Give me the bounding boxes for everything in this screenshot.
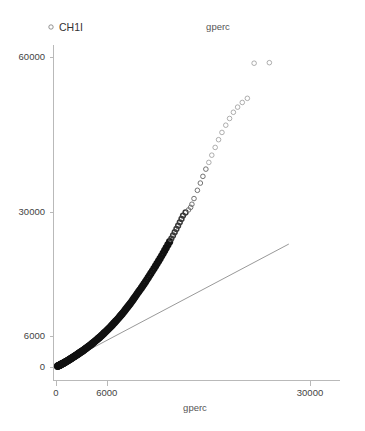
data-point-marker <box>235 105 240 110</box>
legend-label-ch1i: CH1I <box>59 21 83 33</box>
data-point-marker <box>231 110 236 115</box>
y-tick-label: 60000 <box>19 51 45 62</box>
legend: CH1I <box>49 21 83 33</box>
data-point-marker <box>195 188 200 193</box>
data-points-group <box>55 60 272 368</box>
data-point-marker <box>223 123 228 128</box>
data-point-marker <box>207 160 212 165</box>
data-point-marker <box>183 210 188 215</box>
scatter-plot-figure: gperc CH1I 060003000060000 0600030000 gp… <box>0 0 365 431</box>
data-point-marker <box>220 130 225 135</box>
x-tick-label: 6000 <box>96 387 117 398</box>
x-axis-title: gperc <box>183 402 207 413</box>
data-point-marker <box>213 145 218 150</box>
data-point-marker <box>201 174 206 179</box>
data-point-marker <box>204 167 209 172</box>
x-axis-ticks: 0600030000 <box>53 381 323 399</box>
chart-canvas: gperc CH1I 060003000060000 0600030000 gp… <box>0 0 365 431</box>
y-tick-label: 6000 <box>24 330 45 341</box>
y-axis-ticks: 060003000060000 <box>19 51 54 372</box>
y-tick-label: 30000 <box>19 206 45 217</box>
y-tick-label: 0 <box>40 361 45 372</box>
legend-marker-open-circle <box>49 25 53 29</box>
data-point-marker <box>216 137 221 142</box>
data-point-marker <box>267 60 272 65</box>
chart-title: gperc <box>206 21 230 32</box>
data-point-marker <box>240 100 245 105</box>
data-point-marker <box>245 96 250 101</box>
data-point-marker <box>198 181 203 186</box>
reference-line-group <box>59 244 289 366</box>
x-tick-label: 0 <box>53 387 58 398</box>
reference-line <box>59 244 289 366</box>
data-point-marker <box>209 153 214 158</box>
data-point-marker <box>252 61 257 66</box>
x-tick-label: 30000 <box>297 387 323 398</box>
data-point-marker <box>192 196 197 201</box>
data-point-marker <box>227 116 232 121</box>
